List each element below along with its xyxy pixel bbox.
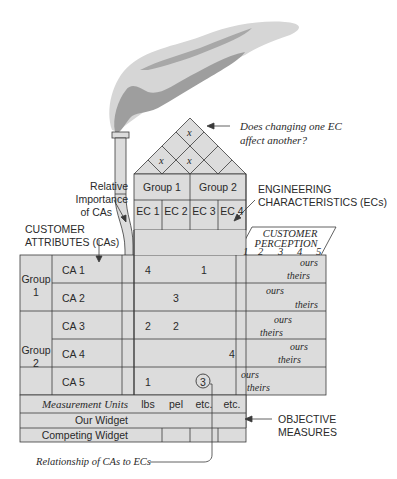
roof-annotation-line2: affect another? [240,134,307,146]
unit: etc. [190,398,218,410]
cell: 2 [134,320,162,332]
our-widget-label: Our Widget [22,414,128,426]
theirs: theirs [278,354,301,366]
cell: 4 [134,264,162,276]
ca-label-line1: CUSTOMER [25,223,85,235]
relationship-label: Relationship of CAs to ECs [36,456,151,468]
ca-label-line2: ATTRIBUTES (CAs) [25,236,119,248]
roof-mark: x [187,127,192,139]
scale-3: 3 [278,246,283,258]
unit: pel [162,398,190,410]
relative-importance-line2: Importance [40,193,128,205]
ec-3: EC 3 [190,205,218,217]
roof-mark: x [187,155,192,167]
ec-2: EC 2 [162,205,190,217]
ca-3: CA 3 [62,320,85,332]
ec-label-line1: ENGINEERING [258,183,332,195]
relative-importance-line3: of CAs [40,206,112,218]
ca-4: CA 4 [62,348,85,360]
theirs: theirs [287,270,310,282]
ec-label-line2: CHARACTERISTICS (ECs) [258,196,387,208]
ours: ours [274,314,292,326]
ca-1: CA 1 [62,264,85,276]
competing-widget-label: Competing Widget [22,429,128,441]
cell: 2 [162,320,190,332]
ours: ours [266,285,284,297]
chimney-cap [112,132,129,138]
ca-group-2-line2: 2 [20,357,52,369]
scale-2: 2 [258,246,263,258]
unit: etc. [218,398,246,410]
ec-group-2: Group 2 [190,181,246,193]
ours: ours [290,341,308,353]
ca-group-1-line2: 1 [20,286,52,298]
scale-1: 1 [243,246,248,258]
relative-importance-line1: Relative [40,180,128,192]
ca-2: CA 2 [62,292,85,304]
ec-4: EC 4 [218,205,246,217]
objective-measures-line1: OBJECTIVE [278,413,336,425]
ca-5: CA 5 [62,376,85,388]
objective-measures-line2: MEASURES [278,426,337,438]
ours: ours [241,369,259,381]
ca-group-2-line1: Group [20,344,52,356]
cell: 1 [134,376,162,388]
ca-group-1-line1: Group [20,273,52,285]
cell-circled: 3 [189,376,217,388]
cell: 3 [162,292,190,304]
ours: ours [300,257,318,269]
measurement-units-label: Measurement Units [22,398,128,410]
unit: lbs [134,398,162,410]
ec-group-1: Group 1 [134,181,190,193]
roof-mark: x [159,155,164,167]
roof-annotation-line1: Does changing one EC [240,120,342,132]
theirs: theirs [295,299,318,311]
cell: 4 [218,348,246,360]
theirs: theirs [247,382,270,394]
theirs: theirs [260,327,283,339]
ec-1: EC 1 [134,205,162,217]
cell: 1 [190,264,218,276]
